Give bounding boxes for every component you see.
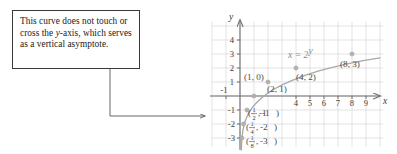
leader-polyline	[110, 69, 205, 116]
graph-svg: y x 4 3 2 1 -1 -2 -3	[204, 0, 397, 154]
coordinate-graph: y x 4 3 2 1 -1 -2 -3	[204, 0, 397, 154]
grid-lines	[212, 22, 383, 147]
x-tick-label-8: 8	[350, 98, 354, 108]
point-label-2-1: (2, 1)	[267, 84, 287, 94]
point-label-eighth-neg3: ( 1 8 , -3 )	[246, 134, 277, 149]
y-tick-label-3: 3	[230, 49, 234, 59]
svg-text:(: (	[246, 122, 249, 132]
svg-text:(: (	[246, 136, 249, 146]
annotation-callout-box: This curve does not touch or cross the y…	[12, 10, 140, 69]
callout-line-4: asymptote.	[67, 39, 108, 49]
point-label-4-2: (4, 2)	[296, 72, 316, 82]
x-tick-label-5: 5	[308, 98, 312, 108]
point-8-3	[350, 52, 354, 56]
svg-text:,: ,	[258, 108, 260, 118]
svg-text:,: ,	[256, 136, 258, 146]
point-1-0	[252, 94, 256, 98]
y-tick-label-2: 2	[230, 63, 234, 73]
annotation-callout-text: This curve does not touch or cross the y…	[20, 16, 133, 51]
svg-text:,: ,	[256, 122, 258, 132]
frac-y-quarter: -2	[260, 122, 268, 132]
y-tick-label-1: 1	[230, 77, 234, 87]
axes	[210, 20, 380, 150]
frac-den-eighth: 8	[250, 142, 253, 149]
x-tick-label-6: 6	[322, 98, 327, 108]
svg-text:): )	[276, 108, 279, 118]
y-tick-label-neg1: -1	[228, 105, 235, 115]
equation-label-group: x = 2 y	[287, 45, 314, 61]
x-tick-label-4: 4	[294, 98, 299, 108]
point-1over8-neg3	[240, 136, 244, 140]
svg-text:(: (	[248, 108, 251, 118]
frac-y-eighth: -3	[260, 136, 268, 146]
y-axis-label: y	[228, 12, 234, 22]
frac-y-half-value: -1	[262, 108, 270, 118]
point-label-1-0: (1, 0)	[244, 72, 264, 82]
frac-num-half: 1	[252, 106, 255, 113]
callout-line-2-post: -axis, which	[60, 28, 106, 38]
point-4-2	[294, 66, 298, 70]
callout-line-1: This curve does not touch	[20, 16, 117, 26]
point-1over4-neg2	[241, 122, 245, 126]
equation-label: x = 2	[287, 49, 309, 60]
figure-canvas: This curve does not touch or cross the y…	[0, 0, 397, 154]
svg-text:): )	[274, 122, 277, 132]
point-label-quarter-neg2: ( 1 4 , -2 )	[246, 120, 277, 135]
equation-label-exponent: y	[308, 45, 314, 56]
point-label-8-3: (8, 3)	[340, 59, 360, 69]
frac-num-eighth: 1	[250, 134, 253, 141]
y-tick-label-4: 4	[230, 35, 235, 45]
x-tick-label-9: 9	[364, 98, 368, 108]
x-tick-label-7: 7	[336, 98, 341, 108]
svg-text:): )	[274, 136, 277, 146]
x-axis-label: x	[382, 96, 388, 106]
x-tick-label-neg1: -1	[220, 85, 227, 95]
frac-num-quarter: 1	[250, 120, 253, 127]
y-tick-label-neg3: -3	[228, 133, 235, 143]
y-tick-label-neg2: -2	[228, 119, 235, 129]
